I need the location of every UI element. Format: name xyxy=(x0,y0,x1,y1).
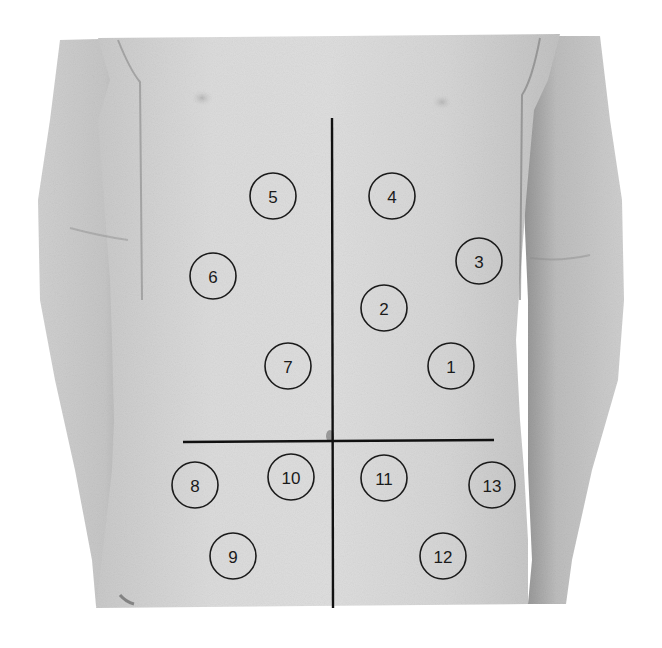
marker-label: 9 xyxy=(228,548,237,567)
right-nipple xyxy=(430,93,454,111)
marker-label: 7 xyxy=(283,358,292,377)
vertical-midline xyxy=(332,118,333,608)
marker-label: 5 xyxy=(268,188,277,207)
abdominal-regions-figure: 12345678910111213 xyxy=(0,0,662,648)
marker-label: 12 xyxy=(434,548,453,567)
marker-label: 13 xyxy=(483,477,502,496)
marker-label: 4 xyxy=(387,188,396,207)
right-arm xyxy=(520,36,624,604)
left-nipple xyxy=(190,89,214,107)
marker-label: 2 xyxy=(379,300,388,319)
marker-label: 3 xyxy=(474,253,483,272)
torso xyxy=(96,34,560,608)
marker-label: 6 xyxy=(208,268,217,287)
marker-label: 10 xyxy=(282,469,301,488)
marker-label: 11 xyxy=(375,470,393,489)
marker-label: 8 xyxy=(190,477,199,496)
marker-label: 1 xyxy=(446,358,455,377)
